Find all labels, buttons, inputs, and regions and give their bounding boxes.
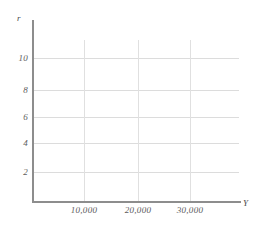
y-tick-label: 6 bbox=[0, 112, 28, 123]
y-tick-label: 10 bbox=[0, 53, 28, 64]
y-tick-label: 4 bbox=[0, 138, 28, 149]
x-tick-label: 10,000 bbox=[71, 205, 98, 215]
x-tick-label: 30,000 bbox=[177, 205, 204, 215]
y-tick-label-text: 4 bbox=[23, 138, 28, 148]
y-tick-label-text: 10 bbox=[18, 53, 28, 63]
x-axis-label: Y bbox=[243, 198, 248, 208]
y-tick-label-text: 6 bbox=[23, 112, 28, 122]
y-tick-label-text: 8 bbox=[23, 85, 28, 95]
vertical-gridline bbox=[190, 40, 191, 202]
horizontal-gridline bbox=[34, 58, 239, 59]
y-axis-line bbox=[32, 20, 34, 203]
x-axis-line bbox=[32, 201, 241, 203]
y-tick-label-text: 2 bbox=[23, 167, 28, 177]
horizontal-gridline bbox=[34, 90, 239, 91]
vertical-gridline bbox=[84, 40, 85, 202]
y-tick-label: 2 bbox=[0, 167, 28, 178]
vertical-gridline bbox=[138, 40, 139, 202]
horizontal-gridline bbox=[34, 143, 239, 144]
y-tick-label: 8 bbox=[0, 85, 28, 96]
y-axis-label: r bbox=[17, 13, 21, 23]
blank-graph-grid: 108642 10,00020,00030,000 r Y bbox=[0, 0, 268, 226]
horizontal-gridline bbox=[34, 117, 239, 118]
horizontal-gridline bbox=[34, 172, 239, 173]
x-tick-label: 20,000 bbox=[125, 205, 152, 215]
